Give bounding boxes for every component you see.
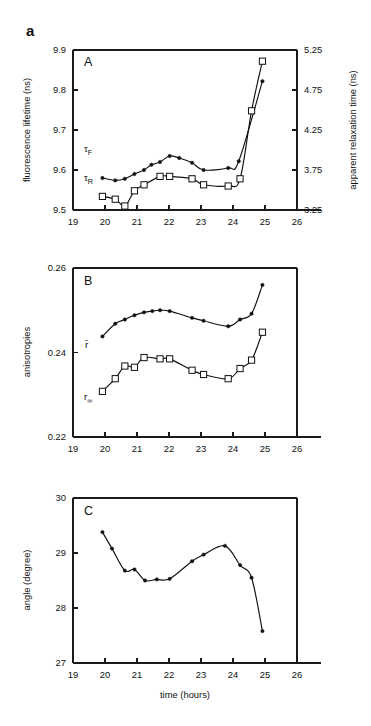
fit-curve-τF xyxy=(102,81,262,180)
panel-b-x-ticks: 1920212223242526 xyxy=(68,432,302,454)
data-point-open-square xyxy=(189,367,195,373)
fit-curve-τR xyxy=(102,61,262,206)
data-point-filled-circle xyxy=(123,569,126,572)
panel-b-letter: B xyxy=(84,274,92,288)
data-point-filled-circle xyxy=(143,579,146,582)
data-point-open-square xyxy=(248,357,254,363)
x-tick-label: 21 xyxy=(132,443,142,454)
panel-b-axes xyxy=(73,268,321,437)
data-point-filled-circle xyxy=(202,168,205,171)
panel-b-series-label-r-inf: r∞ xyxy=(84,391,92,405)
data-point-filled-circle xyxy=(123,318,126,321)
y-tick-label-left: 27 xyxy=(56,657,66,668)
data-point-filled-circle xyxy=(261,283,264,286)
x-tick-label: 24 xyxy=(228,216,238,227)
data-point-open-square xyxy=(131,364,137,370)
panel-b-plot-area xyxy=(99,283,265,394)
y-tick-label-left: 9.5 xyxy=(53,204,66,215)
y-tick-label-right: 4.25 xyxy=(304,124,322,135)
x-tick-label: 26 xyxy=(292,443,302,454)
data-point-open-square xyxy=(167,173,173,179)
panel-a-ylabel-left: fluorescence lifetime (ns) xyxy=(21,78,32,182)
data-point-open-square xyxy=(131,188,137,194)
figure-root: a 9.59.69.79.89.9 3.253.754.254.755.25 1… xyxy=(0,0,371,726)
x-tick-label: 21 xyxy=(132,669,142,680)
data-point-open-square xyxy=(248,108,254,114)
x-tick-label: 23 xyxy=(196,216,206,227)
panel-b-ylabel-left: anisotropies xyxy=(21,326,32,377)
x-tick-label: 22 xyxy=(164,669,174,680)
panel-a-letter: A xyxy=(84,55,93,69)
fit-curve-r∞ xyxy=(102,332,262,391)
data-point-open-square xyxy=(225,376,231,382)
y-tick-label-left: 0.26 xyxy=(48,262,66,273)
panel-c-svg: 27282930 1920212223242526 C angle (degre… xyxy=(0,470,371,726)
x-tick-label: 19 xyxy=(68,216,78,227)
y-tick-label-right: 3.25 xyxy=(304,204,322,215)
data-point-open-square xyxy=(141,354,147,360)
x-tick-label: 21 xyxy=(132,216,142,227)
y-tick-label-left: 29 xyxy=(56,547,66,558)
data-point-filled-circle xyxy=(155,578,158,581)
y-tick-label-left: 9.8 xyxy=(53,84,66,95)
data-point-open-square xyxy=(237,176,243,182)
y-tick-label-right: 3.75 xyxy=(304,164,322,175)
panel-a-series-label-tau-r: τR xyxy=(84,172,93,186)
y-tick-label-left: 9.9 xyxy=(53,44,66,55)
data-point-open-square xyxy=(122,363,128,369)
data-point-open-square xyxy=(200,182,206,188)
data-point-filled-circle xyxy=(190,316,193,319)
panel-b-svg: 0.220.240.26 1920212223242526 B anisotro… xyxy=(0,250,371,478)
data-point-filled-circle xyxy=(168,154,171,157)
y-tick-label-left: 0.24 xyxy=(48,347,66,358)
data-point-filled-circle xyxy=(150,163,153,166)
panel-c-letter: C xyxy=(84,504,93,518)
data-point-open-square xyxy=(167,356,173,362)
data-point-filled-circle xyxy=(190,161,193,164)
data-point-filled-circle xyxy=(158,309,161,312)
x-tick-label: 25 xyxy=(260,669,270,680)
y-tick-label-right: 4.75 xyxy=(304,84,322,95)
panel-a-ylabel-right: apparent relaxation time (ns) xyxy=(347,70,358,189)
data-point-filled-circle xyxy=(114,322,117,325)
data-point-filled-circle xyxy=(133,172,136,175)
data-point-filled-circle xyxy=(178,156,181,159)
data-point-open-square xyxy=(122,203,128,209)
data-point-filled-circle xyxy=(158,160,161,163)
y-tick-label-left: 28 xyxy=(56,602,66,613)
data-point-filled-circle xyxy=(110,547,113,550)
data-point-filled-circle xyxy=(101,176,104,179)
panel-a-axes xyxy=(73,50,321,210)
data-point-open-square xyxy=(157,173,163,179)
panel-a: 9.59.69.79.89.9 3.253.754.254.755.25 192… xyxy=(0,0,371,250)
panel-a-series-label-tau-f: τF xyxy=(84,143,93,157)
data-point-filled-circle xyxy=(261,80,264,83)
data-point-filled-circle xyxy=(227,325,230,328)
data-point-filled-circle xyxy=(202,553,205,556)
data-point-filled-circle xyxy=(238,318,241,321)
x-tick-label: 22 xyxy=(164,216,174,227)
data-point-open-square xyxy=(225,183,231,189)
data-point-open-square xyxy=(112,376,118,382)
x-tick-label: 26 xyxy=(292,216,302,227)
x-tick-label: 19 xyxy=(68,443,78,454)
data-point-open-square xyxy=(99,193,105,199)
fit-curve-angle xyxy=(102,532,262,631)
panel-a-y-ticks-left: 9.59.69.79.89.9 xyxy=(53,44,78,215)
data-point-filled-circle xyxy=(261,629,264,632)
y-tick-label-left: 0.22 xyxy=(48,431,66,442)
data-point-filled-circle xyxy=(133,568,136,571)
x-tick-label: 25 xyxy=(260,216,270,227)
data-point-filled-circle xyxy=(168,577,171,580)
panel-c-x-ticks: 1920212223242526 xyxy=(68,658,302,680)
y-tick-label-left: 30 xyxy=(56,492,66,503)
x-tick-label: 26 xyxy=(292,669,302,680)
data-point-filled-circle xyxy=(237,160,240,163)
data-point-filled-circle xyxy=(223,544,226,547)
x-tick-label: 24 xyxy=(228,443,238,454)
panel-a-x-ticks: 1920212223242526 xyxy=(68,205,302,227)
x-tick-label: 20 xyxy=(100,443,110,454)
data-point-filled-circle xyxy=(142,168,145,171)
data-point-filled-circle xyxy=(133,314,136,317)
data-point-open-square xyxy=(259,58,265,64)
